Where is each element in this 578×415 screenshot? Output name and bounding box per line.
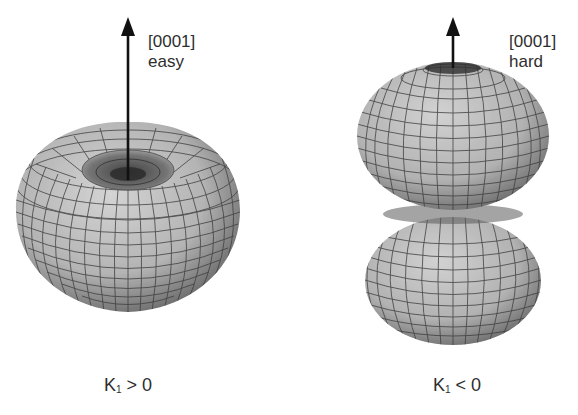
axis-type-label: easy <box>148 52 184 71</box>
axis-type-label: hard <box>509 52 543 71</box>
caption-k1-positive: K1 > 0 <box>104 375 152 396</box>
axis-direction-label: [0001] <box>148 32 195 51</box>
caption-k1-negative: K1 < 0 <box>433 375 481 396</box>
torus-surface-plot <box>0 0 289 415</box>
arrow-up-icon <box>446 17 460 36</box>
axis-direction-label: [0001] <box>509 32 556 51</box>
panel-easy-axis: [0001] easy K1 > 0 <box>0 0 289 415</box>
arrow-up-icon <box>121 17 135 36</box>
panel-hard-axis: [0001] hard K1 < 0 <box>289 0 578 415</box>
